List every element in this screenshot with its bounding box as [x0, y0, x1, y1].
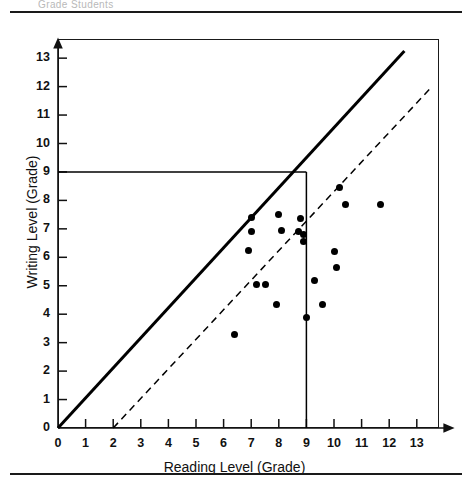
x-tick-label: 6 — [213, 437, 235, 450]
data-point — [278, 227, 285, 234]
data-point — [245, 247, 252, 254]
x-tick-label: 2 — [102, 437, 124, 450]
y-tick-label: 13 — [28, 51, 50, 64]
x-tick-label: 0 — [47, 437, 69, 450]
data-point — [248, 214, 255, 221]
data-point — [253, 281, 260, 288]
data-point — [331, 248, 338, 255]
x-tick-label: 4 — [157, 437, 179, 450]
x-tick-label: 3 — [130, 437, 152, 450]
x-tick-label: 12 — [378, 437, 400, 450]
x-tick-label: 5 — [185, 437, 207, 450]
x-tick-label: 8 — [268, 437, 290, 450]
y-tick-label: 0 — [28, 421, 50, 434]
y-axis-title: Writing Level (Grade) — [24, 127, 40, 317]
y-tick-label: 2 — [28, 364, 50, 377]
y-tick-label: 3 — [28, 336, 50, 349]
x-tick-label: 10 — [323, 437, 345, 450]
x-tick-label: 1 — [75, 437, 97, 450]
page-top-rule — [10, 11, 462, 13]
data-point — [273, 301, 280, 308]
page-bottom-rule — [10, 473, 462, 475]
page-header-ghost-text: Grade Students — [38, 0, 258, 9]
x-tick-label: 9 — [295, 437, 317, 450]
data-point — [231, 331, 238, 338]
y-tick-label: 1 — [28, 393, 50, 406]
x-tick-label: 7 — [240, 437, 262, 450]
chart-page: Grade Students 012345678910111213 012345… — [0, 0, 469, 487]
x-tick-label: 11 — [351, 437, 373, 450]
data-point — [342, 201, 349, 208]
y-tick-label: 11 — [28, 108, 50, 121]
data-point — [248, 228, 255, 235]
data-point — [333, 264, 340, 271]
y-tick-label: 12 — [28, 80, 50, 93]
data-point — [303, 314, 310, 321]
x-tick-label: 13 — [406, 437, 428, 450]
data-point — [311, 277, 318, 284]
data-point — [262, 281, 269, 288]
